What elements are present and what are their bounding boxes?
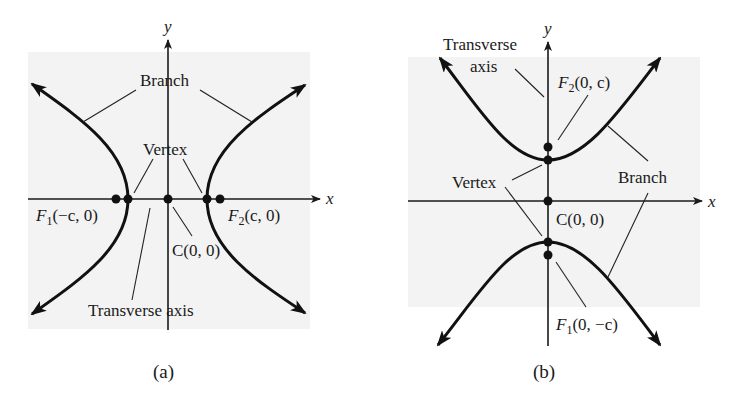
center-point [164, 195, 173, 204]
focus-f2-point [544, 143, 553, 152]
transverse-axis-label-line2: axis [470, 57, 497, 76]
center-point [544, 197, 553, 206]
branch-label: Branch [618, 168, 668, 187]
center-label: C(0, 0) [172, 241, 220, 260]
x-axis-label: x [707, 192, 716, 211]
hyperbola-figure: y x Branch Vertex F1(−c, 0) F2(c, 0) C(0… [0, 0, 732, 404]
vertex-label: Vertex [452, 173, 497, 192]
branch-label: Branch [140, 71, 190, 90]
caption-a: (a) [153, 361, 174, 383]
y-axis-label: y [162, 17, 172, 36]
panel-a: y x Branch Vertex F1(−c, 0) F2(c, 0) C(0… [28, 17, 334, 383]
caption-b: (b) [533, 361, 555, 383]
focus-f1-point [112, 195, 121, 204]
x-axis-label: x [325, 189, 334, 208]
focus-f1-point [544, 251, 553, 260]
y-axis-label: y [542, 19, 552, 38]
center-label: C(0, 0) [556, 210, 604, 229]
vertex-top-point [544, 156, 553, 165]
vertex-bottom-point [544, 238, 553, 247]
transverse-axis-label-line1: Transverse [443, 35, 517, 54]
focus-f2-label: F2(0, c) [557, 73, 610, 95]
vertex-left-point [124, 195, 133, 204]
focus-f1-label: F1(0, −c) [555, 315, 618, 337]
focus-f2-label: F2(c, 0) [227, 206, 280, 228]
vertex-right-point [203, 195, 212, 204]
focus-f2-point [216, 195, 225, 204]
vertex-label: Vertex [143, 140, 188, 159]
focus-f1-label: F1(−c, 0) [35, 206, 98, 228]
panel-b: y x Transverse axis F2(0, c) Vertex Bran… [408, 19, 716, 383]
transverse-axis-label: Transverse axis [88, 301, 194, 320]
